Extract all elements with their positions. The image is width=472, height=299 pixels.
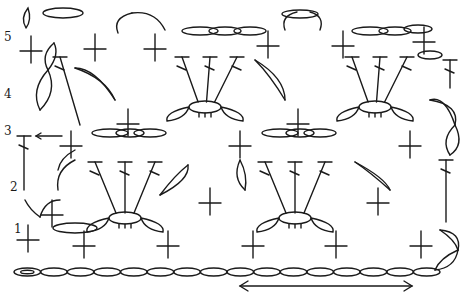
single-crochet-icon xyxy=(332,31,354,58)
chain-stitch xyxy=(200,268,227,276)
single-crochet-icon xyxy=(257,31,279,58)
chain-loop xyxy=(209,27,241,35)
single-crochet-icon xyxy=(20,36,42,63)
row-label: 2 xyxy=(10,180,18,194)
chain-stitch xyxy=(121,268,148,276)
repeat-arrow-icon xyxy=(240,281,412,291)
double-crochet-fans xyxy=(87,57,414,232)
chain-stitch xyxy=(14,268,41,276)
single-crochet-icon xyxy=(410,231,432,258)
single-crochet-icon xyxy=(60,131,82,158)
direction-arrows xyxy=(36,133,412,291)
chain-stitch xyxy=(227,268,254,276)
chain-loop xyxy=(304,129,336,137)
dc-fan xyxy=(87,162,163,232)
slip-knot-icon xyxy=(21,270,34,274)
row-direction-arrow-icon xyxy=(36,133,62,139)
dc-fan xyxy=(337,57,414,121)
foundation-chain xyxy=(14,268,440,276)
single-crochet-icon xyxy=(413,27,435,54)
chain-stitch xyxy=(41,268,68,276)
single-crochet-icon xyxy=(399,131,421,158)
double-crochet-icon xyxy=(17,136,31,190)
single-crochet-icon xyxy=(41,200,63,227)
chain-loop xyxy=(53,223,97,233)
row-label: 5 xyxy=(4,30,12,44)
dc-fan xyxy=(257,162,333,232)
row-label: 1 xyxy=(14,222,22,236)
single-crochet-icon xyxy=(199,188,221,215)
single-crochet-icon xyxy=(157,231,179,258)
crochet-chart xyxy=(0,0,472,299)
single-crochet-icon xyxy=(367,188,389,215)
single-crochet-icon xyxy=(229,131,251,158)
row-label: 4 xyxy=(4,87,12,101)
single-crochet-icon xyxy=(242,231,264,258)
single-crochet-icon xyxy=(84,34,106,61)
chain-stitch xyxy=(174,268,201,276)
chain-loop xyxy=(418,51,442,59)
single-crochet-icon xyxy=(73,231,95,258)
chain-stitch xyxy=(254,268,281,276)
chain-loop xyxy=(234,27,266,35)
chain-loop xyxy=(134,129,166,137)
double-crochet-icon xyxy=(53,57,80,125)
double-crochet-icon xyxy=(439,160,453,222)
chain-stitch xyxy=(360,268,387,276)
chain-stitch xyxy=(334,268,361,276)
decorative-loops xyxy=(23,8,459,270)
chain-stitch xyxy=(387,268,414,276)
double-crochet-icon xyxy=(443,60,457,88)
chain-loop xyxy=(43,8,83,18)
chain-stitch xyxy=(94,268,121,276)
dc-fan xyxy=(167,57,244,121)
row-label: 3 xyxy=(4,124,12,138)
single-crochet-icon xyxy=(144,34,166,61)
chain-stitch xyxy=(147,268,174,276)
single-crochet-icon xyxy=(325,231,347,258)
tall-stitches xyxy=(17,57,457,222)
chain-stitch xyxy=(67,268,94,276)
chain-stitch xyxy=(280,268,307,276)
chain-stitch xyxy=(307,268,334,276)
